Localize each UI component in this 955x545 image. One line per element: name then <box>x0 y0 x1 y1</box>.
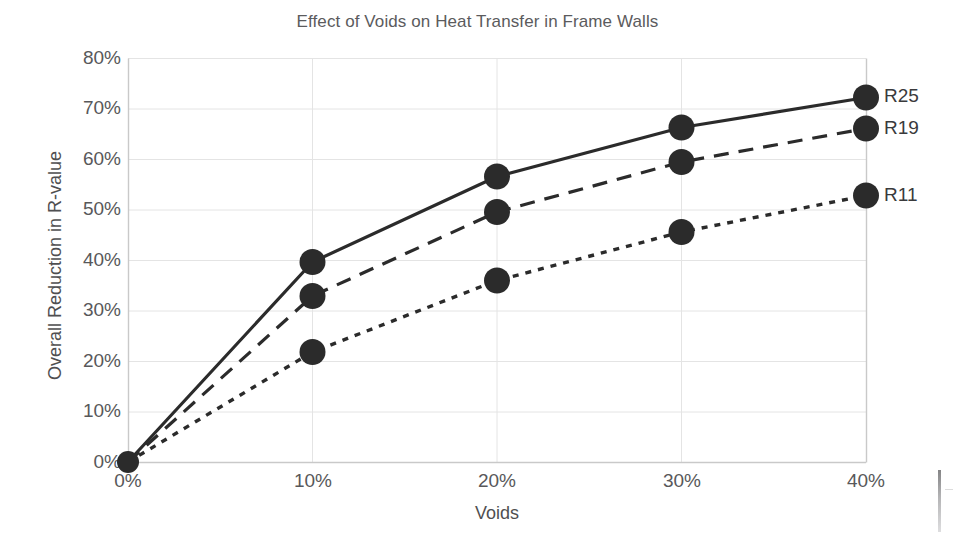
data-point <box>300 339 326 365</box>
data-point <box>484 164 510 190</box>
data-point <box>669 149 695 175</box>
data-point <box>484 268 510 294</box>
data-point <box>117 451 139 473</box>
scan-edge-artifact <box>938 470 941 532</box>
series-markers-r19 <box>300 116 880 310</box>
data-point <box>853 85 879 111</box>
series-label-r25: R25 <box>884 85 919 107</box>
plot-canvas <box>0 0 955 545</box>
scan-edge-artifact-line <box>945 489 953 490</box>
data-point <box>300 249 326 275</box>
data-point <box>484 199 510 225</box>
data-point <box>669 115 695 141</box>
data-point <box>853 183 879 209</box>
series-label-r11: R11 <box>884 184 917 206</box>
data-point <box>300 283 326 309</box>
chart-figure: Effect of Voids on Heat Transfer in Fram… <box>0 0 955 545</box>
series-label-r19: R19 <box>884 117 919 139</box>
data-point <box>669 219 695 245</box>
data-point <box>853 116 879 142</box>
